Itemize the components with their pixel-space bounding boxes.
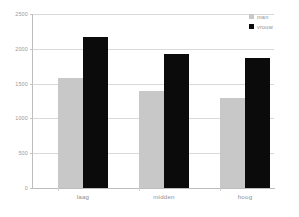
x-tick-label-laag: laag: [77, 193, 90, 200]
legend-swatch-vrouw-icon: [249, 24, 254, 29]
bar-man-hoog: [220, 98, 245, 188]
bar-vrouw-hoog: [245, 58, 270, 188]
legend-label-man: man: [257, 14, 268, 20]
y-tick-label-1000: 1000: [2, 115, 28, 121]
legend: man vrouw: [249, 13, 273, 30]
bar-vrouw-midden: [164, 54, 189, 188]
x-tick-mark-laag: [58, 188, 59, 191]
y-tick-label-1500: 1500: [2, 81, 28, 87]
legend-item-vrouw: vrouw: [249, 23, 273, 30]
legend-item-man: man: [249, 13, 273, 20]
bar-man-laag: [58, 78, 83, 188]
y-axis-line: [32, 14, 33, 189]
y-tick-label-500: 500: [2, 150, 28, 156]
bar-chart: 2500 2000 1500 1000 500 0 laag midden ho…: [0, 0, 299, 217]
legend-swatch-man-icon: [249, 14, 254, 19]
y-tick-label-2500: 2500: [2, 11, 28, 17]
gridline-2000: [32, 49, 274, 50]
x-tick-label-hoog: hoog: [238, 193, 253, 200]
x-axis-line: [32, 188, 275, 189]
bar-man-midden: [139, 91, 164, 188]
y-tick-label-0: 0: [2, 185, 28, 191]
plot-area: [32, 14, 274, 188]
x-tick-mark-midden: [139, 188, 140, 191]
x-tick-mark-hoog: [220, 188, 221, 191]
x-tick-label-midden: midden: [153, 193, 175, 200]
y-tick-label-2000: 2000: [2, 46, 28, 52]
gridline-2500: [32, 14, 274, 15]
bar-vrouw-laag: [83, 37, 108, 188]
legend-label-vrouw: vrouw: [257, 24, 273, 30]
